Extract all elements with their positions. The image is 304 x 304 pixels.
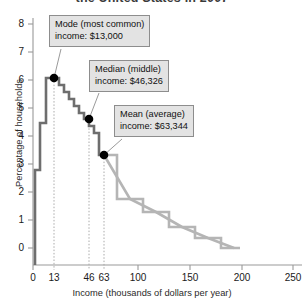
- x-tick-label-150: 150: [175, 272, 205, 283]
- annotation-mean-line1: Mean (average): [120, 109, 188, 121]
- marker-mean: [100, 151, 109, 160]
- distribution-tail-staircase: [104, 155, 240, 248]
- annotation-median: Median (middle) income: $46,326: [89, 60, 169, 92]
- distribution-tail-step: [104, 155, 234, 248]
- plot-area: [0, 0, 304, 304]
- y-tick-label-8: 8: [10, 18, 24, 29]
- x-tick-label-13: 13: [39, 272, 69, 283]
- annotation-median-line2: income: $46,326: [95, 76, 163, 88]
- x-tick-label-100: 100: [123, 272, 153, 283]
- x-tick-label-250: 250: [278, 272, 304, 283]
- y-tick-label-7: 7: [10, 46, 24, 57]
- x-axis-label: Income (thousands of dollars per year): [0, 288, 304, 298]
- annotation-mean-line2: income: $63,344: [120, 121, 188, 133]
- annotation-mode: Mode (most common) income: $13,000: [49, 15, 150, 47]
- chart-figure: the United States in 2007: [0, 0, 304, 304]
- annotation-median-line1: Median (middle): [95, 64, 163, 76]
- marker-mode: [50, 74, 59, 83]
- x-tick-label-200: 200: [227, 272, 257, 283]
- marker-median: [85, 115, 94, 124]
- y-axis-label: Percentage of households: [14, 58, 24, 208]
- y-tick-marks: [28, 24, 33, 248]
- annotation-mode-line2: income: $13,000: [55, 31, 144, 43]
- annotation-mode-line1: Mode (most common): [55, 19, 144, 31]
- x-tick-label-63: 63: [89, 272, 119, 283]
- y-tick-label-1: 1: [10, 214, 24, 225]
- y-tick-label-0: 0: [10, 242, 24, 253]
- annotation-mean: Mean (average) income: $63,344: [114, 105, 194, 137]
- x-tick-marks: [33, 265, 293, 270]
